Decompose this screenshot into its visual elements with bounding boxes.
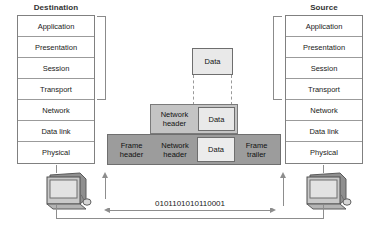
layer-data-link: Data link <box>18 121 94 142</box>
source-stack-connector <box>323 165 324 173</box>
source-stack-title: Source <box>286 3 362 12</box>
arrow-shaft <box>283 177 284 206</box>
layer-presentation: Presentation <box>18 37 94 58</box>
destination-layer-stack: Application Presentation Session Transpo… <box>17 15 95 164</box>
source-link-drop <box>323 205 324 219</box>
data-guide-line-left <box>193 75 194 105</box>
data-guide-line-right <box>231 75 232 105</box>
cell-frame-header: Frame header <box>110 137 153 162</box>
osi-encapsulation-diagram: Destination Source Application Presentat… <box>0 0 379 227</box>
cell-network-header: Network header <box>153 137 197 162</box>
destination-stack-title: Destination <box>18 3 94 12</box>
layer-presentation: Presentation <box>286 37 362 58</box>
layer-data-link: Data link <box>286 121 362 142</box>
destination-link-drop <box>56 205 57 219</box>
encapsulation-tier-frame: Frame header Network header Data Frame t… <box>107 134 281 165</box>
encapsulation-tier-data: Data <box>192 48 233 75</box>
cell-frame-trailer: Frame trailer <box>235 137 278 162</box>
source-upper-layers-bracket <box>273 16 282 100</box>
transmission-shaft <box>110 210 270 211</box>
layer-transport: Transport <box>18 79 94 100</box>
layer-physical: Physical <box>286 142 362 163</box>
encapsulation-tier-network: Network header Data <box>150 104 238 134</box>
bitstream-label: 0101101010110001 <box>104 199 276 208</box>
source-encapsulation-arrow <box>279 172 288 206</box>
physical-link-line <box>56 218 324 219</box>
destination-upper-layers-bracket <box>97 16 106 100</box>
destination-computer-icon <box>40 171 96 213</box>
source-layer-stack: Application Presentation Session Transpo… <box>285 15 363 164</box>
cell-data: Data <box>192 48 233 75</box>
layer-session: Session <box>18 58 94 79</box>
layer-application: Application <box>286 16 362 37</box>
layer-physical: Physical <box>18 142 94 163</box>
layer-transport: Transport <box>286 79 362 100</box>
cell-network-header: Network header <box>153 107 196 131</box>
destination-stack-connector <box>56 165 57 173</box>
layer-session: Session <box>286 58 362 79</box>
source-computer-icon <box>300 171 356 213</box>
cell-data: Data <box>197 137 235 162</box>
layer-network: Network <box>18 100 94 121</box>
layer-network: Network <box>286 100 362 121</box>
cell-data: Data <box>198 107 235 131</box>
layer-application: Application <box>18 16 94 37</box>
